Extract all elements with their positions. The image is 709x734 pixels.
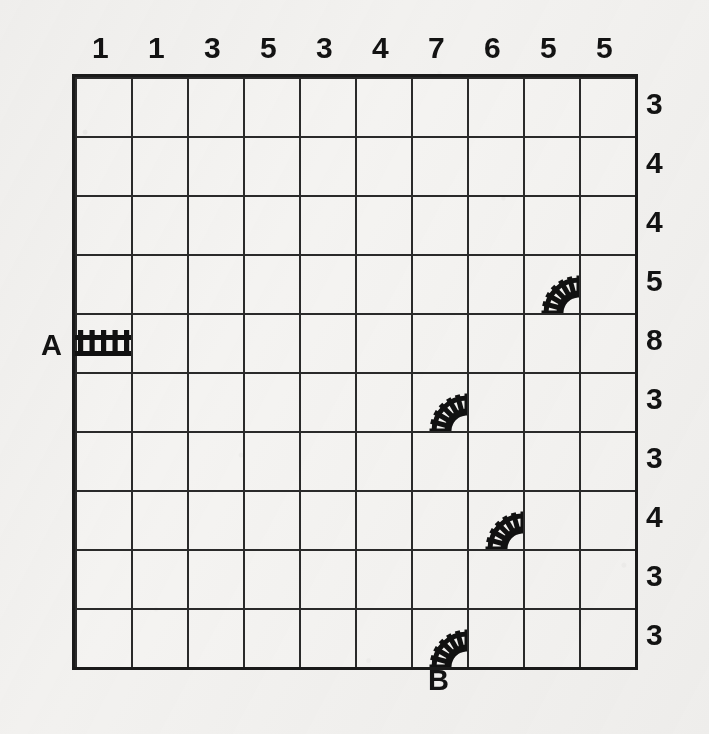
grid-cell[interactable] (411, 313, 467, 372)
grid-cell[interactable] (355, 136, 411, 195)
grid-cell[interactable] (411, 254, 467, 313)
grid-cell[interactable] (75, 195, 131, 254)
grid-cell[interactable] (355, 431, 411, 490)
grid-cell[interactable] (75, 490, 131, 549)
grid-cell[interactable] (299, 372, 355, 431)
grid-cell[interactable] (579, 254, 635, 313)
grid-cell[interactable] (131, 608, 187, 667)
grid-cell[interactable] (131, 431, 187, 490)
grid-cell[interactable] (187, 136, 243, 195)
grid-cell[interactable] (467, 549, 523, 608)
grid-cell[interactable] (579, 608, 635, 667)
grid-cell[interactable] (355, 254, 411, 313)
grid-cell[interactable] (355, 549, 411, 608)
grid-cell[interactable] (187, 254, 243, 313)
grid-cell[interactable] (467, 372, 523, 431)
grid-cell[interactable] (411, 490, 467, 549)
grid-cell[interactable] (187, 431, 243, 490)
grid-cell[interactable] (187, 608, 243, 667)
grid-cell[interactable] (523, 490, 579, 549)
grid-cell[interactable] (523, 431, 579, 490)
grid-cell[interactable] (243, 254, 299, 313)
grid-cell[interactable] (131, 254, 187, 313)
grid-cell[interactable] (523, 313, 579, 372)
grid-cell[interactable] (579, 195, 635, 254)
grid-cell[interactable] (467, 313, 523, 372)
grid-cell[interactable] (355, 195, 411, 254)
grid-cell[interactable] (355, 77, 411, 136)
grid-cell-filled[interactable] (467, 490, 523, 549)
grid-cell[interactable] (523, 195, 579, 254)
grid-cell[interactable] (299, 77, 355, 136)
grid-cell[interactable] (299, 254, 355, 313)
grid-cell[interactable] (75, 372, 131, 431)
grid-cell[interactable] (467, 254, 523, 313)
grid-cell[interactable] (243, 195, 299, 254)
grid-cell[interactable] (467, 431, 523, 490)
grid-cell[interactable] (299, 549, 355, 608)
grid-cell[interactable] (243, 490, 299, 549)
grid-cell[interactable] (355, 313, 411, 372)
grid-cell[interactable] (243, 372, 299, 431)
grid-cell[interactable] (131, 313, 187, 372)
grid-cell[interactable] (75, 254, 131, 313)
grid-cell[interactable] (131, 136, 187, 195)
grid-cell[interactable] (467, 608, 523, 667)
grid-cell[interactable] (187, 549, 243, 608)
grid-cell[interactable] (243, 136, 299, 195)
grid-cell[interactable] (355, 372, 411, 431)
grid-cell[interactable] (579, 549, 635, 608)
grid-cell[interactable] (411, 136, 467, 195)
grid-cell[interactable] (355, 608, 411, 667)
puzzle-grid[interactable] (72, 74, 638, 670)
grid-cell[interactable] (579, 490, 635, 549)
grid-cell[interactable] (355, 490, 411, 549)
grid-cell[interactable] (299, 490, 355, 549)
grid-cell[interactable] (299, 136, 355, 195)
grid-cell[interactable] (131, 77, 187, 136)
grid-cell[interactable] (411, 77, 467, 136)
grid-cell[interactable] (579, 313, 635, 372)
grid-cell-filled[interactable] (523, 254, 579, 313)
grid-cell[interactable] (411, 431, 467, 490)
grid-cell[interactable] (187, 313, 243, 372)
grid-cell[interactable] (523, 136, 579, 195)
grid-cell[interactable] (187, 490, 243, 549)
grid-cell[interactable] (131, 549, 187, 608)
grid-cell[interactable] (523, 608, 579, 667)
grid-cell[interactable] (75, 136, 131, 195)
grid-cell[interactable] (579, 431, 635, 490)
grid-cell[interactable] (131, 195, 187, 254)
grid-cell[interactable] (75, 549, 131, 608)
grid-cell[interactable] (75, 77, 131, 136)
grid-cell[interactable] (411, 549, 467, 608)
grid-cell[interactable] (243, 431, 299, 490)
grid-cell[interactable] (75, 608, 131, 667)
grid-cell[interactable] (187, 77, 243, 136)
grid-cell[interactable] (523, 372, 579, 431)
grid-cell[interactable] (411, 195, 467, 254)
grid-cell-filled[interactable] (411, 608, 467, 667)
grid-cell[interactable] (523, 77, 579, 136)
grid-cell[interactable] (467, 136, 523, 195)
grid-cell[interactable] (579, 77, 635, 136)
grid-cell[interactable] (243, 549, 299, 608)
grid-cell[interactable] (187, 372, 243, 431)
grid-cell-filled[interactable] (411, 372, 467, 431)
grid-cell[interactable] (243, 608, 299, 667)
grid-cell[interactable] (467, 195, 523, 254)
grid-cell[interactable] (299, 195, 355, 254)
grid-cell[interactable] (243, 77, 299, 136)
grid-cell[interactable] (299, 431, 355, 490)
grid-cell-filled[interactable] (75, 313, 131, 372)
grid-cell[interactable] (299, 608, 355, 667)
grid-cell[interactable] (523, 549, 579, 608)
grid-cell[interactable] (243, 313, 299, 372)
grid-cell[interactable] (299, 313, 355, 372)
grid-cell[interactable] (131, 372, 187, 431)
grid-cell[interactable] (579, 372, 635, 431)
grid-cell[interactable] (131, 490, 187, 549)
grid-cell[interactable] (75, 431, 131, 490)
grid-cell[interactable] (187, 195, 243, 254)
grid-cell[interactable] (467, 77, 523, 136)
